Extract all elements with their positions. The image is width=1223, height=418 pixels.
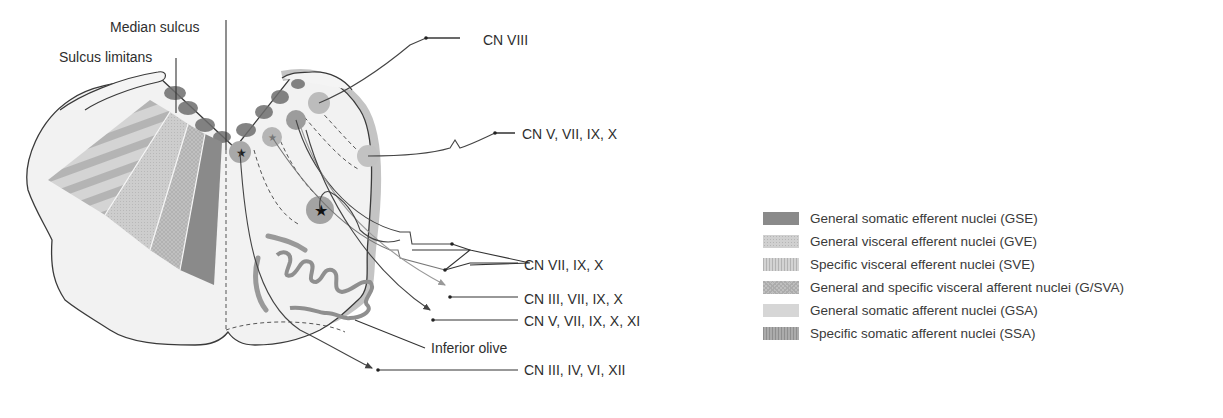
- legend-item-gsa: General somatic afferent nuclei (GSA): [763, 299, 1124, 322]
- legend-label: Specific somatic afferent nuclei (SSA): [810, 326, 1036, 341]
- swatch-ssa: [763, 327, 799, 340]
- legend-item-sve: Specific visceral efferent nuclei (SVE): [763, 253, 1124, 276]
- swatch-gsva: [763, 281, 799, 294]
- label-cn-vii-ix-x: CN VII, IX, X: [524, 257, 603, 273]
- legend-label: Specific visceral efferent nuclei (SVE): [810, 257, 1035, 272]
- label-cn-v-vii-ix-x-xi: CN V, VII, IX, X, XI: [524, 313, 640, 329]
- label-cn-v-vii-ix-x: CN V, VII, IX, X: [522, 126, 617, 142]
- legend-item-gse: General somatic efferent nuclei (GSE): [763, 207, 1124, 230]
- svg-text:★: ★: [236, 146, 247, 160]
- label-cn-iii-iv-vi-xii: CN III, IV, VI, XII: [524, 362, 625, 378]
- swatch-gse: [763, 212, 799, 225]
- label-inferior-olive: Inferior olive: [431, 340, 507, 356]
- legend-item-gsva: General and specific visceral afferent n…: [763, 276, 1124, 299]
- legend-label: General visceral efferent nuclei (GVE): [810, 234, 1037, 249]
- legend-item-ssa: Specific somatic afferent nuclei (SSA): [763, 322, 1124, 345]
- label-sulcus-limitans: Sulcus limitans: [59, 49, 152, 65]
- swatch-gsa: [763, 304, 799, 317]
- legend-label: General somatic efferent nuclei (GSE): [810, 211, 1038, 226]
- label-cn-iii-vii-ix-x: CN III, VII, IX, X: [524, 291, 623, 307]
- swatch-sve: [763, 258, 799, 271]
- swatch-gve: [763, 235, 799, 248]
- legend-item-gve: General visceral efferent nuclei (GVE): [763, 230, 1124, 253]
- leader-dots: [376, 36, 497, 372]
- label-median-sulcus: Median sulcus: [110, 19, 200, 35]
- legend-label: General somatic afferent nuclei (GSA): [810, 303, 1038, 318]
- legend: General somatic efferent nuclei (GSE) Ge…: [763, 207, 1124, 345]
- legend-label: General and specific visceral afferent n…: [810, 280, 1124, 295]
- label-cn-viii: CN VIII: [483, 32, 528, 48]
